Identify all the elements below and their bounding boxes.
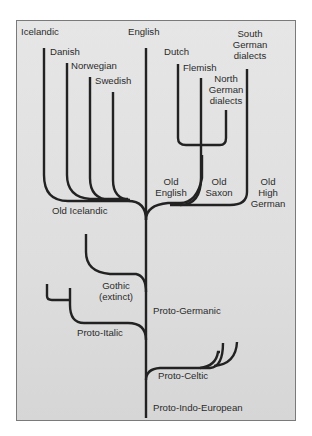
label-old-saxon: Old Saxon xyxy=(203,176,235,198)
label-danish: Danish xyxy=(50,46,80,57)
label-south-german-dialects: South German dialects xyxy=(227,28,273,61)
label-icelandic: Icelandic xyxy=(21,26,59,37)
label-proto-italic: Proto-Italic xyxy=(77,327,123,338)
label-old-icelandic: Old Icelandic xyxy=(52,205,107,216)
norwegian-line xyxy=(90,77,110,200)
label-flemish: Flemish xyxy=(183,62,217,73)
swedish-line xyxy=(113,92,130,200)
label-proto-celtic: Proto-Celtic xyxy=(158,370,208,381)
label-old-english: Old English xyxy=(153,176,189,198)
label-gothic: Gothic (extinct) xyxy=(94,280,138,302)
label-dutch: Dutch xyxy=(164,46,189,57)
label-norwegian: Norwegian xyxy=(71,60,117,71)
label-old-high-german: Old High German xyxy=(248,176,288,209)
label-proto-germanic: Proto-Germanic xyxy=(153,305,221,316)
italic-fork xyxy=(47,284,70,300)
label-north-german-dialects: North German dialects xyxy=(205,73,247,106)
language-tree-lines xyxy=(0,0,312,436)
label-proto-indo-european: Proto-Indo-European xyxy=(153,402,243,413)
label-swedish: Swedish xyxy=(95,75,131,86)
label-english: English xyxy=(128,26,159,37)
